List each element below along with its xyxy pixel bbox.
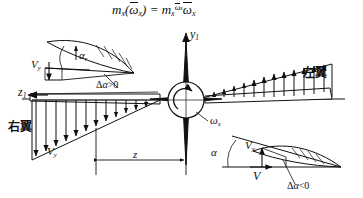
inset-tl-alpha-label: αr [79, 50, 87, 63]
formula-omega-arg: ω [129, 3, 138, 16]
inset-tl-velocity-label: Vy [31, 59, 41, 72]
span-dimension [96, 120, 186, 175]
right-wing-outline [30, 92, 160, 104]
z-axis-label: z1 [18, 86, 26, 99]
formula-omega-factor: ω [183, 3, 192, 16]
formula-paren-close: ) [142, 2, 146, 17]
inset-br-velocity-y-label: Vy [245, 140, 255, 153]
title-formula: mx(ωx) = mxωxωx [112, 3, 196, 18]
formula-equals: = [150, 2, 159, 17]
span-dimension-label: z [133, 149, 137, 160]
inset-br-velocity-label: V [253, 170, 260, 182]
inset-airfoil-top-left [45, 40, 134, 88]
formula-omega-factor-sub: x [192, 9, 196, 18]
inset-airfoil-bottom-right [222, 136, 341, 184]
inset-br-alpha-label: α [211, 147, 217, 158]
inset-tl-delta-alpha-label: Δα>0 [96, 80, 118, 90]
roll-damping-diagram [0, 0, 363, 198]
inset-br-delta-alpha-label: Δα<0 [287, 181, 309, 191]
lower-left-velocity-label: Vy [47, 146, 57, 159]
figure-canvas: mx(ωx) = mxωxωx y1 z1 ωx 右翼 左翼 z αr Vy Δ… [0, 0, 363, 198]
formula-m-right: m [162, 2, 171, 17]
roll-rate-label: ωx [210, 115, 221, 128]
left-wing-label: 左翼 [303, 67, 327, 79]
y-axis-label: y1 [190, 28, 199, 41]
right-wing-label: 右翼 [8, 121, 32, 133]
omega-pointer [196, 112, 208, 121]
formula-derivative-omega: ω [175, 4, 181, 12]
formula-m-left: m [112, 2, 121, 17]
